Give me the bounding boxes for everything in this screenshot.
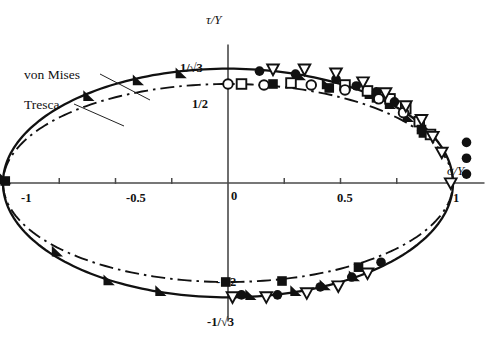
data-marker-circle-filled (255, 66, 265, 76)
data-marker-circle-open (259, 80, 269, 90)
x-tick-label-05: 0.5 (337, 192, 353, 205)
data-marker-circle-open (374, 94, 384, 104)
y-tick-label-neg-inv-sqrt3: -1/√3 (207, 316, 234, 329)
y-tick-label-neg-half: -1/2 (216, 276, 236, 289)
data-marker-circle-filled (390, 97, 400, 107)
data-marker-triangle-down-open (301, 288, 313, 299)
von-mises-label: von Mises (24, 68, 80, 82)
data-marker-circle-filled (462, 153, 472, 163)
data-marker-square-filled (324, 83, 334, 93)
yield-criterion-plot (0, 0, 500, 357)
data-marker-triangle-down-open (332, 281, 344, 292)
x-axis-label: σ/Y (447, 164, 464, 177)
origin-label: 0 (231, 190, 237, 203)
tresca-leader-line (74, 104, 124, 126)
figure-container: τ/Y σ/Y -1 -0.5 0.5 1 0 1/√3 1/2 -1/2 -1… (0, 0, 500, 357)
data-marker-square-open (286, 78, 296, 88)
data-marker-square-open (237, 79, 247, 89)
data-marker-circle-filled (315, 282, 325, 292)
data-marker-triangle-down-open (260, 292, 272, 303)
data-marker-circle-filled (291, 69, 301, 79)
data-marker-circle-filled (273, 290, 283, 300)
data-marker-triangle-right-filled (133, 74, 144, 85)
y-tick-label-half: 1/2 (192, 98, 208, 111)
data-marker-circle-open (223, 79, 233, 89)
data-marker-circle-open (340, 85, 350, 95)
data-marker-triangle-right-filled (245, 289, 256, 300)
x-tick-label-neg05: -0.5 (126, 192, 146, 205)
tresca-label: Tresca (24, 98, 60, 112)
y-tick-label-inv-sqrt3: 1/√3 (180, 62, 203, 75)
data-marker-circle-filled (347, 272, 357, 282)
data-marker-triangle-right-filled (155, 285, 166, 296)
data-marker-square-filled (0, 176, 10, 186)
x-tick-label-neg1: -1 (21, 192, 31, 205)
data-marker-triangle-down-open (299, 65, 311, 76)
y-axis-label: τ/Y (206, 13, 222, 26)
data-marker-square-filled (277, 276, 287, 286)
data-marker-circle-open (306, 80, 316, 90)
data-marker-circle-filled (376, 257, 386, 267)
data-marker-circle-filled (462, 138, 472, 148)
x-tick-label-1: 1 (453, 192, 459, 205)
